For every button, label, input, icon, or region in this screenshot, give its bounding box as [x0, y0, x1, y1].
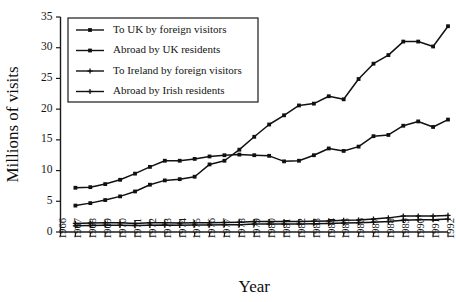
- y-tick-label: 35: [41, 10, 53, 22]
- data-point-marker: [357, 145, 361, 149]
- y-axis-group: 05101520253035: [41, 10, 61, 237]
- x-tick-label: 1974: [177, 217, 188, 239]
- x-tick-label: 1985: [340, 218, 351, 239]
- data-point-marker: [372, 134, 376, 138]
- data-point-marker: [372, 62, 376, 66]
- data-point-marker: [163, 179, 167, 183]
- y-tick-label: 20: [41, 102, 53, 114]
- data-point-marker: [297, 104, 301, 108]
- data-point-marker: [133, 190, 137, 194]
- x-tick-label: 1978: [236, 218, 247, 239]
- data-point-marker: [103, 182, 107, 186]
- data-point-marker: [103, 198, 107, 202]
- data-point-marker: [327, 94, 331, 98]
- data-point-marker: [416, 120, 420, 124]
- line-chart: 05101520253035 1966196719681969197019711…: [0, 0, 456, 302]
- y-tick-label: 10: [41, 163, 53, 175]
- data-point-marker: [386, 133, 390, 137]
- data-point-marker: [193, 175, 197, 179]
- data-point-marker: [133, 172, 137, 176]
- data-point-marker: [342, 97, 346, 101]
- x-tick-label: 1972: [147, 218, 158, 239]
- data-point-marker: [223, 153, 227, 157]
- data-point-marker: [178, 159, 182, 163]
- data-point-marker: [446, 118, 450, 122]
- data-point-marker: [267, 123, 271, 127]
- data-point-marker: [401, 40, 405, 44]
- data-point-marker: [148, 165, 152, 169]
- y-tick-group: 05101520253035: [41, 10, 61, 237]
- data-point-marker: [118, 194, 122, 198]
- x-tick-label: 1986: [355, 218, 366, 239]
- data-point-marker: [282, 113, 286, 117]
- legend-item-label: Abroad by Irish residents: [113, 84, 225, 96]
- legend-item-label: To Ireland by foreign visitors: [113, 64, 242, 76]
- data-point-marker: [312, 153, 316, 157]
- y-tick-label: 5: [47, 194, 53, 206]
- x-tick-label: 1966: [57, 218, 68, 239]
- data-point-marker: [446, 24, 450, 28]
- x-tick-label: 1968: [87, 218, 98, 239]
- data-point-marker: [312, 102, 316, 106]
- x-axis-title: Year: [239, 277, 271, 296]
- data-point-marker: [237, 153, 241, 157]
- data-point-marker: [401, 124, 405, 128]
- data-point-marker: [252, 135, 256, 139]
- x-tick-label: 1969: [102, 218, 113, 239]
- data-point-marker: [431, 125, 435, 129]
- data-point-marker: [431, 45, 435, 49]
- x-tick-label: 1977: [221, 218, 232, 239]
- x-tick-label: 1990: [415, 218, 426, 239]
- data-point-marker: [342, 149, 346, 153]
- y-tick-label: 0: [47, 225, 53, 237]
- x-tick-label: 1992: [445, 218, 456, 239]
- data-point-marker: [252, 153, 256, 157]
- chart-legend: To UK by foreign visitorsAbroad by UK re…: [68, 18, 258, 102]
- data-point-marker: [208, 155, 212, 159]
- data-point-marker: [297, 159, 301, 163]
- series-0: [74, 118, 450, 190]
- x-tick-label: 1987: [370, 218, 381, 239]
- x-tick-label: 1970: [117, 218, 128, 239]
- data-point-marker: [88, 49, 92, 53]
- x-tick-label: 1991: [430, 218, 441, 239]
- data-point-marker: [223, 159, 227, 163]
- x-tick-label: 1973: [162, 218, 173, 239]
- data-point-marker: [118, 178, 122, 182]
- y-axis-title: Millions of visits: [3, 66, 22, 182]
- x-tick-label: 1971: [132, 218, 143, 239]
- y-tick-label: 30: [41, 40, 53, 52]
- legend-item-label: Abroad by UK residents: [113, 43, 220, 55]
- data-point-marker: [282, 159, 286, 163]
- data-point-marker: [357, 77, 361, 81]
- y-tick-label: 15: [41, 132, 53, 144]
- chart-container: 05101520253035 1966196719681969197019711…: [0, 0, 456, 302]
- x-tick-label: 1975: [191, 218, 202, 239]
- y-tick-label: 25: [41, 71, 53, 83]
- data-point-marker: [386, 53, 390, 57]
- data-point-marker: [148, 183, 152, 187]
- data-point-marker: [208, 163, 212, 167]
- data-point-marker: [163, 159, 167, 163]
- legend-item-label: To UK by foreign visitors: [113, 23, 227, 35]
- data-point-marker: [193, 157, 197, 161]
- data-point-marker: [327, 147, 331, 151]
- data-point-marker: [416, 40, 420, 44]
- data-point-marker: [267, 154, 271, 158]
- x-tick-label: 1976: [206, 218, 217, 239]
- data-point-marker: [237, 148, 241, 152]
- data-point-marker: [88, 28, 92, 32]
- data-point-marker: [74, 186, 78, 190]
- data-point-marker: [88, 201, 92, 205]
- data-point-marker: [74, 204, 78, 208]
- x-tick-label: 1967: [72, 218, 83, 239]
- data-point-marker: [88, 185, 92, 189]
- data-point-marker: [178, 177, 182, 181]
